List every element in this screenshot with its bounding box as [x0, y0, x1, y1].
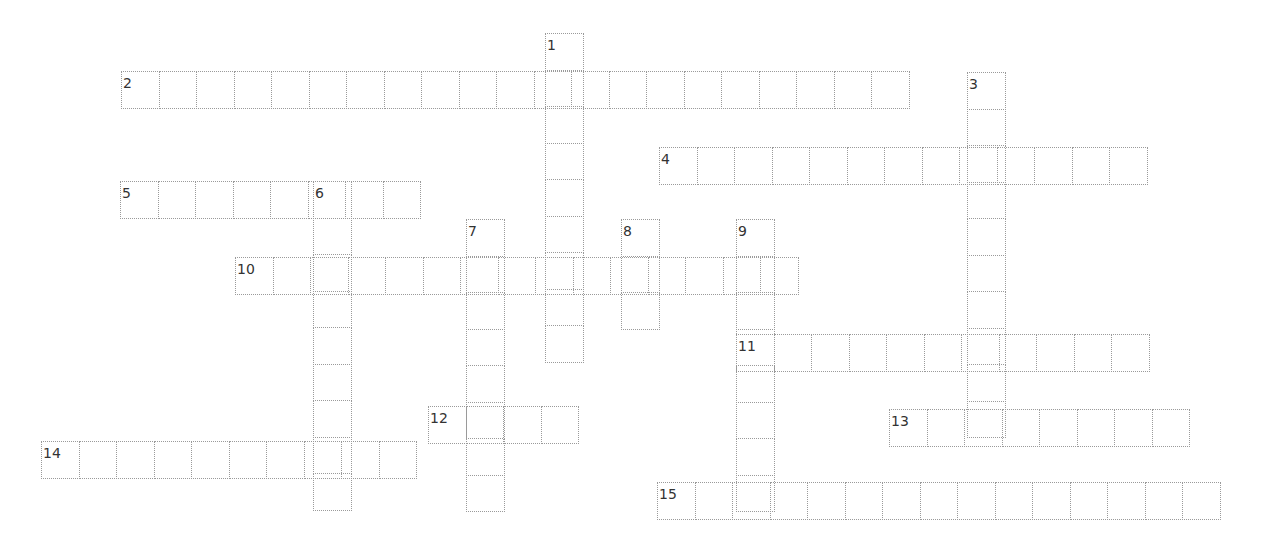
cell-input[interactable]: [574, 258, 611, 294]
cell-input[interactable]: [542, 407, 579, 443]
cell-input[interactable]: [1073, 148, 1110, 184]
cell-input[interactable]: [771, 483, 808, 519]
grid-cell[interactable]: [736, 402, 775, 440]
cell-input[interactable]: [735, 148, 772, 184]
cell-input[interactable]: [968, 110, 1005, 146]
cell-input[interactable]: [349, 258, 386, 294]
grid-cell[interactable]: 9: [736, 219, 775, 257]
cell-input[interactable]: [342, 442, 379, 478]
grid-cell[interactable]: [886, 334, 925, 372]
grid-cell[interactable]: [721, 71, 760, 109]
cell-input[interactable]: [384, 182, 421, 218]
cell-input[interactable]: [236, 258, 273, 294]
cell-input[interactable]: [872, 72, 909, 108]
grid-cell[interactable]: [924, 334, 963, 372]
grid-cell[interactable]: [997, 147, 1036, 185]
grid-cell[interactable]: [999, 334, 1038, 372]
grid-cell[interactable]: [882, 482, 921, 520]
cell-input[interactable]: [197, 72, 234, 108]
grid-cell[interactable]: [466, 438, 505, 476]
grid-cell[interactable]: [1072, 147, 1111, 185]
cell-input[interactable]: [314, 328, 351, 364]
grid-cell[interactable]: [967, 182, 1006, 220]
grid-cell[interactable]: 2: [121, 71, 160, 109]
cell-input[interactable]: [1033, 483, 1070, 519]
grid-cell[interactable]: [734, 147, 773, 185]
cell-input[interactable]: [546, 34, 583, 70]
grid-cell[interactable]: [466, 329, 505, 367]
grid-cell[interactable]: [845, 482, 884, 520]
cell-input[interactable]: [733, 483, 770, 519]
cell-input[interactable]: [230, 442, 267, 478]
grid-cell[interactable]: [466, 475, 505, 513]
grid-cell[interactable]: [313, 364, 352, 402]
cell-input[interactable]: [467, 439, 504, 475]
cell-input[interactable]: [808, 483, 845, 519]
cell-input[interactable]: [305, 442, 342, 478]
cell-input[interactable]: [925, 335, 962, 371]
cell-input[interactable]: [850, 335, 887, 371]
cell-input[interactable]: [467, 330, 504, 366]
cell-input[interactable]: [546, 326, 583, 362]
grid-cell[interactable]: [1032, 482, 1071, 520]
cell-input[interactable]: [429, 407, 466, 443]
cell-input[interactable]: [546, 107, 583, 143]
grid-cell[interactable]: [697, 147, 736, 185]
cell-input[interactable]: [848, 148, 885, 184]
grid-cell[interactable]: [266, 441, 305, 479]
grid-cell[interactable]: [884, 147, 923, 185]
cell-input[interactable]: [310, 72, 347, 108]
grid-cell[interactable]: [234, 71, 273, 109]
cell-input[interactable]: [546, 144, 583, 180]
cell-input[interactable]: [1115, 410, 1152, 446]
cell-input[interactable]: [467, 220, 504, 256]
cell-input[interactable]: [696, 483, 733, 519]
grid-cell[interactable]: [116, 441, 155, 479]
grid-cell[interactable]: [646, 71, 685, 109]
grid-cell[interactable]: 13: [889, 409, 928, 447]
grid-cell[interactable]: [573, 257, 612, 295]
grid-cell[interactable]: [995, 482, 1034, 520]
cell-input[interactable]: [773, 148, 810, 184]
cell-input[interactable]: [271, 182, 308, 218]
cell-input[interactable]: [1153, 410, 1190, 446]
grid-cell[interactable]: [922, 147, 961, 185]
cell-input[interactable]: [497, 72, 534, 108]
grid-cell[interactable]: 15: [657, 482, 696, 520]
grid-cell[interactable]: 6: [313, 181, 352, 219]
cell-input[interactable]: [272, 72, 309, 108]
grid-cell[interactable]: [736, 438, 775, 476]
grid-cell[interactable]: [313, 473, 352, 511]
cell-input[interactable]: [698, 148, 735, 184]
cell-input[interactable]: [546, 290, 583, 326]
grid-cell[interactable]: [1109, 147, 1148, 185]
grid-cell[interactable]: [304, 441, 343, 479]
cell-input[interactable]: [192, 442, 229, 478]
cell-input[interactable]: [546, 217, 583, 253]
cell-input[interactable]: [504, 407, 541, 443]
grid-cell[interactable]: [796, 71, 835, 109]
grid-cell[interactable]: [1002, 409, 1041, 447]
grid-cell[interactable]: [871, 71, 910, 109]
grid-cell[interactable]: [384, 71, 423, 109]
cell-input[interactable]: [890, 410, 927, 446]
grid-cell[interactable]: [459, 71, 498, 109]
cell-input[interactable]: [1000, 335, 1037, 371]
cell-input[interactable]: [1037, 335, 1074, 371]
cell-input[interactable]: [267, 442, 304, 478]
cell-input[interactable]: [968, 292, 1005, 328]
cell-input[interactable]: [535, 72, 572, 108]
cell-input[interactable]: [1112, 335, 1149, 371]
cell-input[interactable]: [1078, 410, 1115, 446]
cell-input[interactable]: [760, 72, 797, 108]
cell-input[interactable]: [649, 258, 686, 294]
cell-input[interactable]: [1035, 148, 1072, 184]
grid-cell[interactable]: [233, 181, 272, 219]
grid-cell[interactable]: [759, 71, 798, 109]
grid-cell[interactable]: [196, 71, 235, 109]
cell-input[interactable]: [1075, 335, 1112, 371]
grid-cell[interactable]: [961, 334, 1000, 372]
cell-input[interactable]: [160, 72, 197, 108]
grid-cell[interactable]: [423, 257, 462, 295]
grid-cell[interactable]: [957, 482, 996, 520]
